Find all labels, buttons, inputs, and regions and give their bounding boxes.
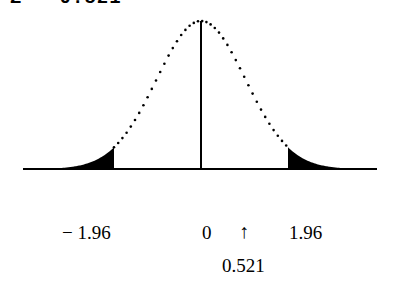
normal-curve-plot — [0, 0, 404, 200]
tick-label-pos-critical: 1.96 — [289, 223, 322, 242]
up-arrow-icon: ↑ — [239, 221, 249, 241]
tick-label-neg-critical: − 1.96 — [62, 223, 111, 242]
tick-label-zero: 0 — [202, 223, 212, 242]
rejection-region — [288, 147, 377, 169]
marker-label-statistic: 0.521 — [222, 256, 265, 275]
rejection-region — [23, 147, 114, 169]
